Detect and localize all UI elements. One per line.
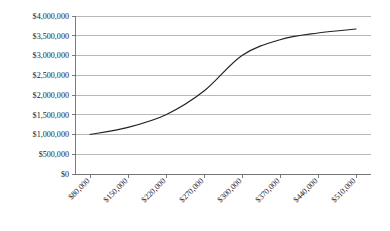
y-axis-tick-label: $500,000 — [39, 150, 69, 159]
y-axis-tick-label: $2,000,000 — [33, 91, 69, 100]
x-axis-tick-label: $370,000 — [254, 177, 282, 205]
x-axis-group — [76, 174, 372, 178]
y-axis-tick-label: $3,500,000 — [33, 32, 69, 41]
data-series-line — [90, 29, 356, 134]
y-axis-tick-label: $4,000,000 — [33, 12, 69, 21]
x-tick-labels-group: $80,000$150,000$220,000$270,000$300,000$… — [66, 177, 357, 205]
x-axis-tick-label: $150,000 — [102, 177, 130, 205]
y-axis-group — [72, 16, 76, 174]
x-axis-tick-label: $510,000 — [330, 177, 358, 205]
x-axis-tick-label: $80,000 — [66, 177, 91, 202]
gridlines-group — [76, 16, 372, 174]
y-tick-labels-group: $0$500,000$1,000,000$1,500,000$2,000,000… — [33, 12, 69, 179]
y-axis-tick-label: $1,000,000 — [33, 130, 69, 139]
x-axis-tick-label: $440,000 — [292, 177, 320, 205]
line-chart: $0$500,000$1,000,000$1,500,000$2,000,000… — [0, 0, 390, 231]
x-axis-tick-label: $270,000 — [178, 177, 206, 205]
x-axis-tick-label: $220,000 — [140, 177, 168, 205]
y-axis-tick-label: $0 — [61, 170, 69, 179]
data-series-group — [90, 29, 356, 134]
y-axis-tick-label: $2,500,000 — [33, 71, 69, 80]
chart-container: $0$500,000$1,000,000$1,500,000$2,000,000… — [0, 0, 390, 231]
x-axis-tick-label: $300,000 — [216, 177, 244, 205]
y-axis-tick-label: $3,000,000 — [33, 51, 69, 60]
y-axis-tick-label: $1,500,000 — [33, 111, 69, 120]
